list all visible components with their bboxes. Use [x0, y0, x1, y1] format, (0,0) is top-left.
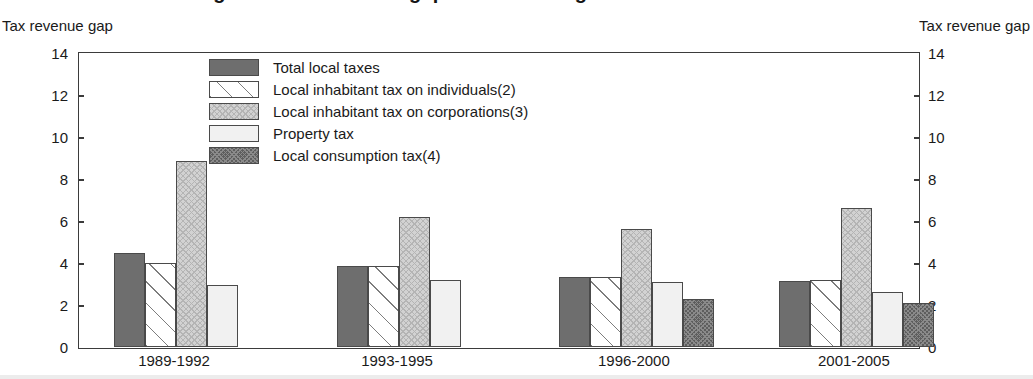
left-axis-caption: Tax revenue gap: [2, 17, 113, 34]
y-tick-label-right: 10: [928, 129, 974, 146]
x-tick-label: 1993-1995: [361, 352, 433, 369]
legend-label: Total local taxes: [273, 59, 380, 76]
y-tick-label-right: 6: [928, 213, 974, 230]
bar: [114, 253, 145, 348]
legend-swatch: [209, 59, 259, 76]
legend-swatch: [209, 103, 259, 120]
bar: [399, 217, 430, 347]
y-tick-label-left: 14: [22, 45, 68, 62]
y-tick-label-left: 6: [22, 213, 68, 230]
bar: [207, 285, 238, 347]
legend-item: Local consumption tax(4): [209, 146, 528, 165]
bar: [176, 161, 207, 347]
legend-label: Local consumption tax(4): [273, 147, 441, 164]
y-tick-label-left: 12: [22, 87, 68, 104]
bar: [145, 263, 176, 347]
bar: [872, 292, 903, 347]
bar: [621, 229, 652, 347]
y-tick-label-right: 12: [928, 87, 974, 104]
bar: [903, 303, 934, 347]
x-tick-label: 1996-2000: [598, 352, 670, 369]
bar: [810, 280, 841, 347]
y-tick-label-right: 2: [928, 297, 974, 314]
legend-item: Total local taxes: [209, 58, 528, 77]
y-tick-label-right: 4: [928, 255, 974, 272]
y-tick-label-right: 0: [928, 339, 974, 356]
legend-item: Local inhabitant tax on corporations(3): [209, 102, 528, 121]
bar-group: [779, 53, 934, 347]
legend-swatch: [209, 81, 259, 98]
bar: [368, 266, 399, 347]
legend-label: Local inhabitant tax on corporations(3): [273, 103, 528, 120]
legend-label: Local inhabitant tax on individuals(2): [273, 81, 516, 98]
page-title: Figure 5. Tax revenue gap across local g…: [195, 0, 703, 4]
bar: [652, 282, 683, 347]
y-tick-label-left: 8: [22, 171, 68, 188]
bar: [683, 299, 714, 347]
right-axis-caption: Tax revenue gap: [919, 17, 1030, 34]
y-tick-label-left: 2: [22, 297, 68, 314]
bottom-band: [0, 375, 1033, 379]
legend-item: Property tax: [209, 124, 528, 143]
chart-page: { "title": "Figure 5. Tax revenue gap ac…: [0, 0, 1033, 379]
bar: [841, 208, 872, 347]
y-tick-label-left: 4: [22, 255, 68, 272]
bar: [337, 266, 368, 347]
bar: [779, 281, 810, 347]
figure-title-clipped: Figure 5. Tax revenue gap across local g…: [0, 0, 1033, 14]
legend-swatch: [209, 125, 259, 142]
bar-group: [559, 53, 714, 347]
y-tick-label-left: 0: [22, 339, 68, 356]
legend-item: Local inhabitant tax on individuals(2): [209, 80, 528, 99]
bar: [430, 280, 461, 347]
x-tick-label: 1989-1992: [138, 352, 210, 369]
legend-label: Property tax: [273, 125, 354, 142]
bar: [590, 277, 621, 347]
bar: [559, 277, 590, 347]
legend-swatch: [209, 147, 259, 164]
x-tick-label: 2001-2005: [818, 352, 890, 369]
y-tick-label-right: 14: [928, 45, 974, 62]
y-tick-label-right: 8: [928, 171, 974, 188]
y-tick-label-left: 10: [22, 129, 68, 146]
chart-legend: Total local taxesLocal inhabitant tax on…: [209, 58, 528, 165]
